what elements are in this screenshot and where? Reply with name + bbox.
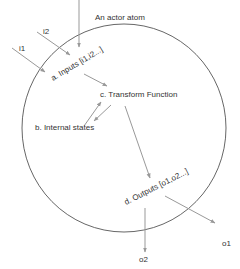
node-internal-states: b. Internal states bbox=[35, 123, 94, 132]
output-label-o1: o1 bbox=[222, 239, 231, 248]
arrow-outputs-to-o1 bbox=[165, 196, 215, 223]
input-label-i1: i1 bbox=[19, 44, 26, 53]
output-label-o2: o2 bbox=[139, 255, 148, 264]
arrow-inputs-to-transform bbox=[84, 74, 107, 86]
node-outputs: d. Outputs [o1,o2...] bbox=[123, 167, 190, 207]
node-inputs: a. Inputs [i1,i2...] bbox=[49, 45, 104, 83]
arrow-transform-to-outputs bbox=[125, 106, 150, 178]
input-label-i2: i2 bbox=[43, 27, 50, 36]
actor-atom-diagram: An actor atom i2 i1 a. Inputs [i1,i2...]… bbox=[0, 0, 240, 269]
arrow-transform-to-internal bbox=[94, 105, 111, 121]
node-transform-function: c. Transform Function bbox=[100, 90, 177, 99]
arrow-i1-to-inputs bbox=[12, 48, 45, 72]
actor-title: An actor atom bbox=[95, 13, 145, 22]
